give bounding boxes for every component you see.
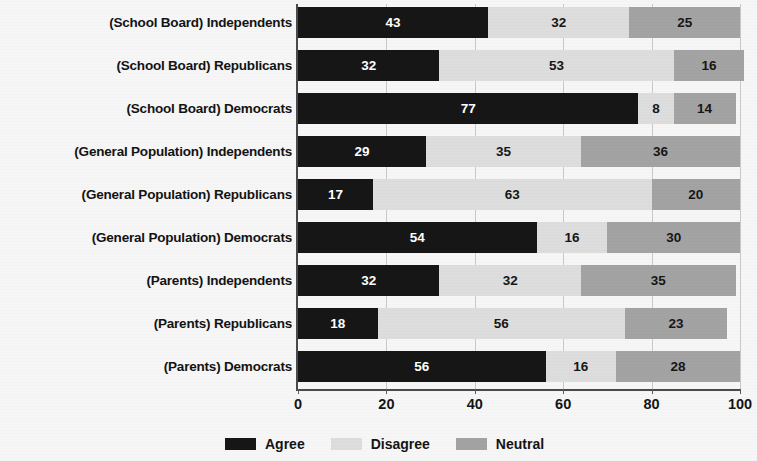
x-axis-line [296, 389, 740, 391]
bar-segment-agree: 29 [298, 136, 426, 167]
legend-label: Agree [265, 436, 305, 452]
chart-legend: AgreeDisagreeNeutral [225, 436, 570, 452]
bar-segment-neutral: 25 [629, 7, 740, 38]
bar-row: 541630 [298, 222, 740, 253]
plot-area: 4332253253167781429353617632054163032323… [298, 0, 740, 392]
bar-value-label: 8 [652, 101, 660, 116]
category-label: (Parents) Republicans [0, 308, 292, 339]
bar-segment-neutral: 14 [674, 93, 736, 124]
bar-segment-disagree: 32 [439, 265, 580, 296]
bar-segment-disagree: 16 [537, 222, 608, 253]
bar-segment-disagree: 53 [439, 50, 673, 81]
bar-segment-neutral: 35 [581, 265, 736, 296]
bar-row: 293536 [298, 136, 740, 167]
bar-value-label: 54 [410, 230, 425, 245]
bar-value-label: 25 [677, 15, 692, 30]
legend-item-neutral[interactable]: Neutral [456, 436, 544, 452]
legend-swatch-disagree [331, 438, 362, 450]
bar-segment-neutral: 20 [652, 179, 740, 210]
bar-value-label: 16 [702, 58, 717, 73]
bar-value-label: 32 [361, 58, 376, 73]
bar-value-label: 16 [565, 230, 580, 245]
bar-value-label: 28 [671, 359, 686, 374]
legend-swatch-neutral [456, 438, 487, 450]
bar-segment-disagree: 32 [488, 7, 629, 38]
bar-segment-agree: 17 [298, 179, 373, 210]
bar-value-label: 36 [653, 144, 668, 159]
x-axis-tick-label: 80 [644, 396, 660, 412]
bar-segment-agree: 54 [298, 222, 537, 253]
bar-row: 77814 [298, 93, 736, 124]
bar-row: 433225 [298, 7, 740, 38]
x-axis-tick [652, 389, 653, 394]
bar-row: 325316 [298, 50, 744, 81]
bar-value-label: 16 [573, 359, 588, 374]
x-axis-tick-label: 0 [294, 396, 302, 412]
legend-label: Disagree [371, 436, 430, 452]
bar-value-label: 43 [386, 15, 401, 30]
bar-segment-agree: 32 [298, 265, 439, 296]
category-label: (Parents) Independents [0, 265, 292, 296]
bar-value-label: 32 [503, 273, 518, 288]
bar-segment-agree: 56 [298, 351, 546, 382]
bar-row: 176320 [298, 179, 740, 210]
bar-segment-disagree: 63 [373, 179, 651, 210]
bar-segment-neutral: 30 [607, 222, 740, 253]
category-label: (General Population) Democrats [0, 222, 292, 253]
bar-segment-disagree: 16 [546, 351, 617, 382]
bar-value-label: 56 [414, 359, 429, 374]
bar-segment-neutral: 36 [581, 136, 740, 167]
legend-swatch-agree [225, 438, 256, 450]
x-axis-tick [386, 389, 387, 394]
bar-value-label: 20 [688, 187, 703, 202]
bar-value-label: 32 [551, 15, 566, 30]
bar-value-label: 56 [494, 316, 509, 331]
bar-value-label: 53 [549, 58, 564, 73]
bar-row: 323235 [298, 265, 736, 296]
x-axis-tick [298, 389, 299, 394]
bar-segment-disagree: 56 [378, 308, 626, 339]
legend-item-disagree[interactable]: Disagree [331, 436, 430, 452]
x-axis-tick-label: 100 [728, 396, 752, 412]
bar-value-label: 14 [697, 101, 712, 116]
category-label: (School Board) Democrats [0, 93, 292, 124]
category-label: (Parents) Democrats [0, 351, 292, 382]
bar-value-label: 23 [668, 316, 683, 331]
x-axis-tick-label: 20 [378, 396, 394, 412]
x-axis-tick [563, 389, 564, 394]
x-axis-tick-label: 60 [555, 396, 571, 412]
bar-segment-disagree: 8 [638, 93, 673, 124]
category-label: (General Population) Republicans [0, 179, 292, 210]
bar-segment-neutral: 16 [674, 50, 745, 81]
bar-value-label: 17 [328, 187, 343, 202]
legend-label: Neutral [496, 436, 544, 452]
bar-value-label: 29 [355, 144, 370, 159]
category-label: (School Board) Independents [0, 7, 292, 38]
bar-segment-agree: 77 [298, 93, 638, 124]
x-axis-tick [740, 389, 741, 394]
bar-value-label: 77 [461, 101, 476, 116]
bar-value-label: 32 [361, 273, 376, 288]
bar-row: 561628 [298, 351, 740, 382]
category-label: (General Population) Independents [0, 136, 292, 167]
bar-segment-disagree: 35 [426, 136, 581, 167]
x-axis-tick [475, 389, 476, 394]
bar-value-label: 30 [666, 230, 681, 245]
bar-segment-agree: 32 [298, 50, 439, 81]
bar-segment-agree: 43 [298, 7, 488, 38]
bar-segment-neutral: 28 [616, 351, 740, 382]
bar-value-label: 63 [505, 187, 520, 202]
category-label: (School Board) Republicans [0, 50, 292, 81]
x-axis-tick-label: 40 [467, 396, 483, 412]
bar-segment-agree: 18 [298, 308, 378, 339]
bar-value-label: 35 [651, 273, 666, 288]
legend-item-agree[interactable]: Agree [225, 436, 305, 452]
stacked-bar-chart: (School Board) Independents(School Board… [0, 0, 757, 461]
bar-row: 185623 [298, 308, 727, 339]
bar-value-label: 18 [330, 316, 345, 331]
bar-value-label: 35 [496, 144, 511, 159]
bar-segment-neutral: 23 [625, 308, 727, 339]
